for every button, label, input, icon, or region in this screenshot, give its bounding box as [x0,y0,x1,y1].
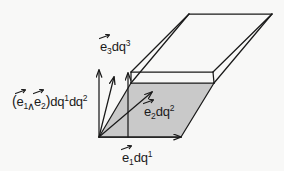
label-wedge-dq2: dq [69,94,83,109]
label-e3-sub: 3 [107,46,112,56]
label-wedge-sup2: 2 [83,93,88,103]
label-e1-dq: dq [134,150,148,165]
label-e1-sub: 1 [129,157,134,167]
label-e2dq2: e2dq2 [144,103,174,118]
label-wedge-dq1: dq [50,94,64,109]
label-wedge-e1: e [16,93,23,108]
figure-canvas: (e1∧e2)dq1dq2 e3dq3 e2dq2 e1dq1 [0,0,284,171]
label-e2-base-wrap: e [144,103,151,118]
edge-top-right [213,14,272,72]
label-e3-dq: dq [112,39,126,54]
label-e1-sup: 1 [148,149,153,159]
label-wedge-sub2: 2 [41,101,46,111]
label-e1-base-wrap: e [122,149,129,164]
label-e3-sup: 3 [126,38,131,48]
edge-riser-back-left [131,14,189,83]
label-wedge-sup1: 1 [64,93,69,103]
parallelepiped-diagram [0,0,284,171]
label-e2-sub: 2 [151,111,156,121]
edge-riser-front-right [213,72,214,83]
edge-riser-back-right [214,14,272,83]
label-e2-sup: 2 [170,103,175,113]
label-e3dq3: e3dq3 [100,38,130,53]
label-e1dq1: e1dq1 [122,149,152,164]
label-e2-dq: dq [156,104,170,119]
label-e3-base-wrap: e [100,38,107,53]
edge-top-left [131,14,189,72]
label-wedge-area: (e1∧e2)dq1dq2 [12,93,88,108]
